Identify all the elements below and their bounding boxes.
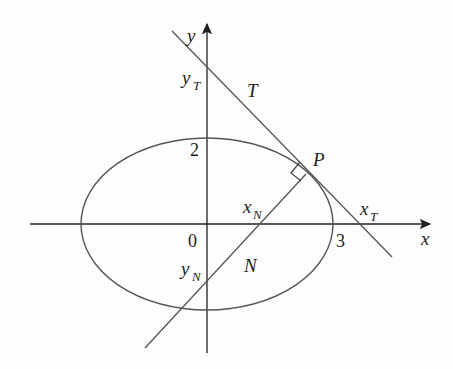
- svg-text:N: N: [252, 207, 263, 222]
- svg-text:y: y: [180, 67, 191, 88]
- y-t-label: y T: [180, 67, 201, 93]
- tangent-label: T: [247, 80, 259, 101]
- tangent-line: [172, 31, 392, 257]
- tick-3-label: 3: [336, 231, 345, 251]
- x-n-label: x N: [242, 196, 263, 222]
- svg-text:x: x: [359, 198, 369, 219]
- svg-text:N: N: [191, 269, 202, 284]
- y-axis-label: y: [185, 25, 196, 46]
- point-p-label: P: [312, 149, 325, 170]
- tick-2-label: 2: [190, 140, 199, 160]
- svg-text:T: T: [370, 209, 378, 224]
- svg-text:x: x: [242, 196, 252, 217]
- x-axis-label: x: [420, 228, 430, 249]
- origin-label: 0: [188, 231, 197, 251]
- x-t-label: x T: [359, 198, 378, 224]
- normal-line: [145, 174, 306, 348]
- diagram: y x 0 3 2 P T N y T x T x N y N: [0, 0, 453, 369]
- ellipse-diagram: y x 0 3 2 P T N y T x T x N y N: [0, 0, 453, 369]
- normal-label: N: [243, 255, 258, 276]
- svg-text:T: T: [193, 78, 201, 93]
- svg-text:y: y: [179, 258, 190, 279]
- y-n-label: y N: [179, 258, 202, 284]
